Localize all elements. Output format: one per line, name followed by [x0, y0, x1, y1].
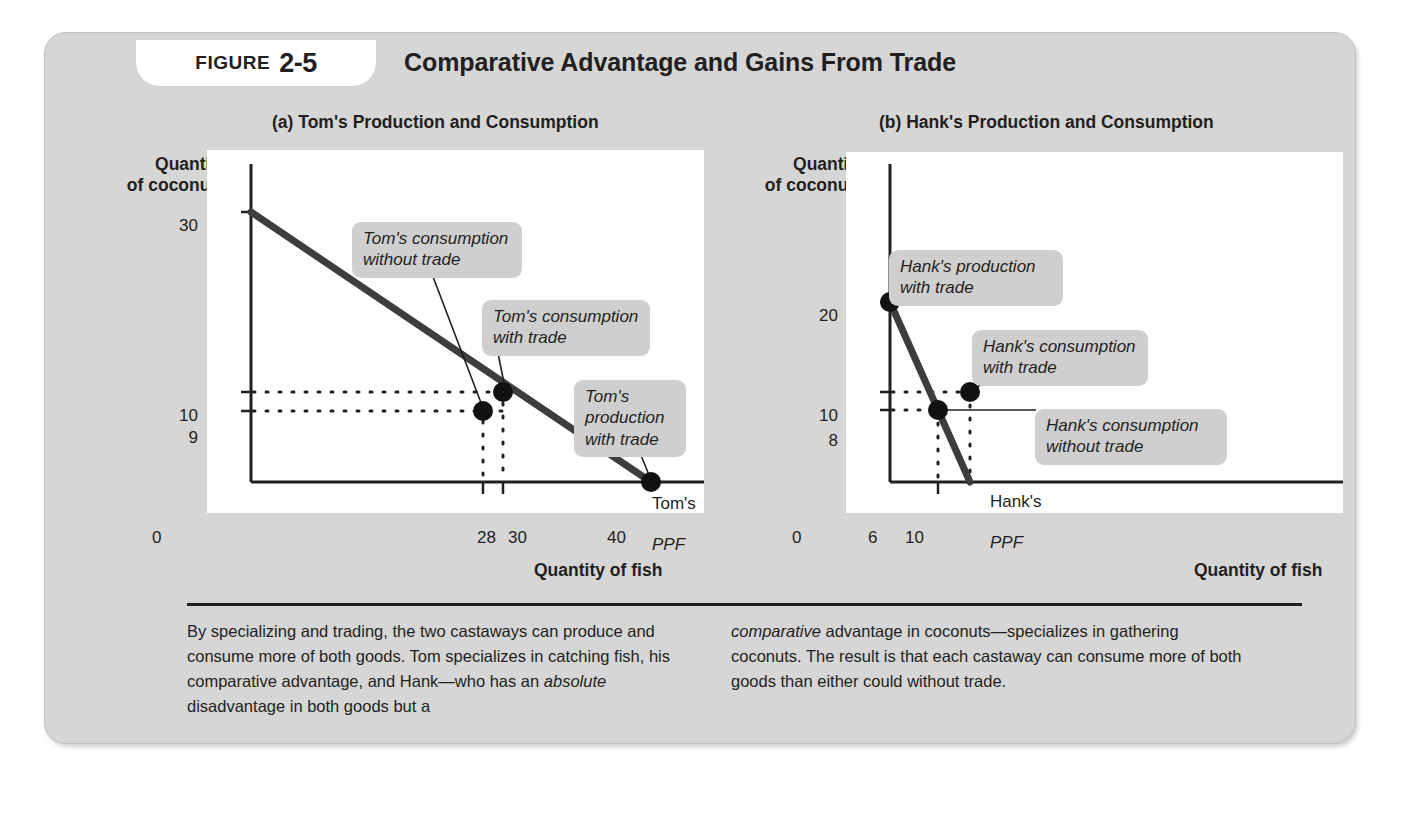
callout-hank-consumption-without-trade: Hank's consumption without trade [1035, 409, 1227, 465]
panel-b-ytick-10: 10 [744, 406, 838, 426]
panel-b-origin-label: 0 [792, 528, 801, 548]
panel-b-x-axis-title: Quantity of fish [1194, 560, 1322, 581]
caption-divider [187, 603, 1302, 606]
panel-b-ppf-label-line1: Hank's [990, 492, 1041, 511]
callout-hank-production-with-trade: Hank's production with trade [889, 250, 1063, 306]
panel-a-ytick-9: 9 [104, 428, 198, 448]
panel-b-xtick-10: 10 [905, 528, 924, 548]
caption-left-part2: disadvantage in both goods but a [187, 697, 430, 715]
panel-b-ppf-label-line2: PPF [990, 533, 1023, 552]
panel-a-xtick-40: 40 [607, 528, 626, 548]
panel-b-ytick-20: 20 [744, 306, 838, 326]
panel-a-ppf-label-line1: Tom's [652, 494, 696, 513]
callout-hank-consumption-with-trade: Hank's consumption with trade [972, 330, 1148, 386]
panel-a-xtick-28: 28 [477, 528, 496, 548]
panel-b-xtick-6: 6 [868, 528, 877, 548]
callout-tom-consumption-with-trade: Tom's consumption with trade [482, 300, 650, 356]
panel-b-y-axis-title: Quantity of coconuts [724, 154, 864, 197]
callout-tom-consumption-without-trade: Tom's consumption without trade [352, 222, 522, 278]
panel-a-x-axis-title: Quantity of fish [534, 560, 662, 581]
caption-right-emphasis: comparative [731, 622, 821, 640]
caption-column-right: comparative advantage in coconuts—specia… [731, 619, 1251, 694]
panel-b-header: (b) Hank's Production and Consumption [879, 112, 1214, 133]
panel-b-ytick-8: 8 [744, 431, 838, 451]
figure-panel: FIGURE 2-5 Comparative Advantage and Gai… [44, 32, 1356, 744]
panel-a-origin-label: 0 [152, 528, 161, 548]
figure-badge: FIGURE 2-5 [136, 40, 376, 86]
panel-a-header: (a) Tom's Production and Consumption [272, 112, 599, 133]
figure-badge-number: 2-5 [279, 48, 317, 79]
panel-a-ytick-30: 30 [104, 216, 198, 236]
caption-column-left: By specializing and trading, the two cas… [187, 619, 683, 719]
caption-left-emphasis: absolute [544, 672, 606, 690]
callout-tom-production-with-trade: Tom's production with trade [574, 380, 686, 457]
panel-a-y-axis-title: Quantity of coconuts [86, 154, 226, 197]
figure-page: FIGURE 2-5 Comparative Advantage and Gai… [0, 0, 1401, 819]
panel-b-ppf-label: Hank's PPF [990, 472, 1041, 554]
panel-a-ppf-label-line2: PPF [652, 535, 685, 554]
panel-a-xtick-30: 30 [508, 528, 527, 548]
panel-a-ytick-10: 10 [104, 406, 198, 426]
panel-a-ppf-label: Tom's PPF [652, 474, 696, 556]
figure-badge-word: FIGURE [195, 52, 270, 74]
figure-title: Comparative Advantage and Gains From Tra… [404, 48, 956, 77]
